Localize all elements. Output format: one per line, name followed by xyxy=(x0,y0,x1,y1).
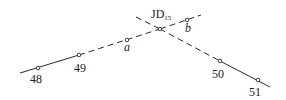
line-50-51-solid xyxy=(220,61,270,87)
point-marker-51 xyxy=(256,78,260,82)
point-marker-49 xyxy=(77,53,81,57)
route-lines xyxy=(20,15,270,87)
line-48-49-solid xyxy=(20,55,79,73)
point-label-48: 48 xyxy=(30,72,42,86)
intersection-jd: JD15 xyxy=(151,7,172,31)
intersection-marker xyxy=(158,27,162,31)
intersection-label: JD15 xyxy=(151,7,172,22)
station-points: 4849ab5051 xyxy=(30,18,261,99)
point-label-a: a xyxy=(124,40,130,54)
point-marker-50 xyxy=(218,59,222,63)
route-diagram: 4849ab5051 JD15 xyxy=(0,0,286,100)
point-marker-48 xyxy=(36,66,40,70)
point-label-49: 49 xyxy=(74,61,86,75)
point-label-50: 50 xyxy=(212,67,224,81)
line-49-jd-dashed xyxy=(79,29,160,55)
point-label-51: 51 xyxy=(249,85,261,99)
point-label-b: b xyxy=(185,21,191,35)
